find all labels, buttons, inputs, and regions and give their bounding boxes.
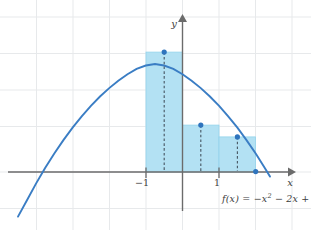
curve-point-3 [235, 134, 240, 139]
x-tick-label-minus-one: −1 [135, 177, 149, 188]
function-label: f(x) = −x2 − 2x + 8 [222, 192, 311, 204]
curve-point-2 [198, 123, 203, 128]
function-label-prefix: f(x) = −x [222, 193, 267, 204]
graph-figure: −1 1 y x f(x) = −x2 − 2x + 8 [0, 0, 311, 230]
x-axis-label: x [287, 177, 293, 188]
curve-point-1 [162, 50, 167, 55]
y-axis-label: y [170, 18, 177, 29]
function-label-suffix: − 2x + 8 [272, 193, 311, 204]
curve-point-root [253, 169, 258, 174]
y-axis-arrow [178, 14, 187, 22]
x-tick-label-one: 1 [214, 177, 220, 188]
